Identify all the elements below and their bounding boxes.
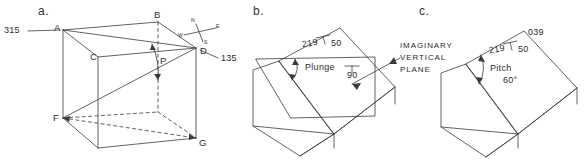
- label-angle-p: P: [160, 55, 167, 66]
- label-pitch-value: 60°: [503, 75, 518, 86]
- figure-canvas: a. 315 135 A B C D F G P N E S W b. 219 …: [0, 0, 585, 163]
- cube-edge-bottom-back-left-hidden: [63, 112, 158, 118]
- cube-edge-f-bottomleft: [63, 118, 98, 148]
- label-vertical-dip-90: 90: [347, 70, 358, 81]
- angle-arc-p-arrow-bottom: [154, 74, 161, 80]
- angle-arc-plunge-arrow-top: [292, 59, 299, 65]
- caption-plane: PLANE: [400, 64, 431, 76]
- angle-arc-pitch-arrow-bottom: [476, 77, 483, 84]
- cube-edge-bd: [158, 22, 196, 48]
- caption-imaginary: IMAGINARY: [400, 40, 453, 52]
- panel-b-block: [253, 28, 400, 156]
- label-bearing-039: 039: [528, 27, 544, 38]
- compass-rose: [184, 24, 216, 42]
- block-bottom-front-edge: [300, 134, 334, 156]
- block-bottom-left-edge: [253, 126, 334, 134]
- label-pitch: Pitch: [490, 63, 512, 74]
- strike-dip-symbol-c-219-50: [503, 41, 517, 50]
- panel-a-tag: a.: [38, 4, 49, 18]
- compass-east-label: E: [216, 24, 220, 30]
- label-bearing-315: 315: [4, 25, 20, 36]
- label-vertex-a: A: [54, 22, 61, 33]
- angle-arc-plunge-arrow-bottom: [289, 74, 296, 80]
- caption-vertical: VERTICAL: [400, 52, 446, 64]
- dip-tick-50: [323, 37, 325, 45]
- dip-tick-c-50: [510, 43, 512, 51]
- caption-leader-arrowhead: [352, 83, 361, 90]
- panel-b-tag: b.: [253, 4, 264, 18]
- angle-arc-pitch-arrow-top: [478, 55, 485, 62]
- cube-edge-bottom-front: [98, 138, 196, 148]
- block-right-top-edge: [334, 87, 395, 134]
- cube-edge-ab: [63, 22, 158, 30]
- block-c-bottom-front-edge: [486, 134, 518, 157]
- panel-a-cube: [28, 22, 218, 148]
- label-dip-50-b: 50: [331, 38, 342, 49]
- compass-south-label: S: [204, 40, 208, 46]
- label-dip-50-c: 50: [518, 44, 529, 55]
- label-vertex-b: B: [154, 9, 161, 20]
- angle-arc-p-arrow-top: [150, 44, 156, 50]
- panel-c-block: [441, 31, 577, 157]
- block-c-right-top-edge: [518, 88, 577, 134]
- label-vertex-f: F: [53, 112, 59, 123]
- compass-west-label: W: [178, 33, 183, 39]
- label-vertex-d: D: [200, 45, 207, 56]
- cube-edge-bottom-back-right-hidden: [158, 112, 196, 138]
- panel-c-tag: c.: [419, 4, 430, 18]
- label-vertex-c: C: [90, 51, 97, 62]
- label-bearing-135: 135: [221, 53, 237, 64]
- compass-north-label: N: [191, 18, 195, 24]
- label-vertex-g: G: [199, 137, 207, 148]
- compass-axis-ns: [196, 24, 203, 42]
- figure-linework: [0, 0, 585, 163]
- label-plunge: Plunge: [305, 62, 335, 73]
- block-c-bottom-left-edge: [441, 127, 518, 134]
- plane-edge-fd: [63, 48, 196, 118]
